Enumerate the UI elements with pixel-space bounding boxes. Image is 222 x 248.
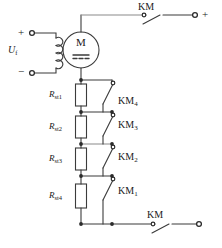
resistor-st2-label: Rst2	[49, 122, 62, 131]
resistor-st3-label: Rst3	[49, 154, 62, 163]
supply-plus-terminal	[193, 13, 198, 18]
bottom-km-pivot	[151, 222, 155, 226]
circuit-diagram-canvas: + − Uf M KM + KM Rst1 Rst2 Rst3 Rst4 KM4…	[0, 0, 222, 248]
motor-letter: M	[76, 37, 86, 48]
km2-blade	[103, 148, 113, 168]
km1-symbol: KM	[118, 185, 134, 196]
node-bottom-right	[110, 222, 114, 226]
circuit-schematic	[0, 0, 222, 248]
node-rung-3-left	[79, 174, 83, 178]
field-coil	[56, 37, 63, 68]
field-bottom-lead	[34, 68, 56, 73]
supply-minus-terminal	[197, 222, 202, 227]
bottom-contactor-label: KM	[147, 210, 163, 220]
km4-blade	[103, 84, 113, 104]
km1-blade	[103, 180, 113, 200]
field-minus-terminal	[30, 71, 35, 76]
resistor-st1-subscript: st1	[55, 93, 63, 100]
supply-plus-sign: +	[202, 9, 208, 20]
resistor-st3-symbol: R	[49, 153, 55, 163]
km2-subscript: 2	[134, 156, 138, 164]
km2-label: KM2	[118, 152, 138, 162]
node-rung-2-left	[79, 142, 83, 146]
km1-label: KM1	[118, 186, 138, 196]
field-plus-terminal	[30, 31, 35, 36]
resistor-st1-body	[76, 84, 87, 106]
node-rung-1-left	[79, 110, 83, 114]
field-voltage-label: Uf	[8, 45, 17, 55]
top-km-pivot	[142, 13, 146, 17]
resistor-st2-subscript: st2	[55, 125, 63, 132]
resistor-st3-body	[76, 148, 87, 170]
km1-subscript: 1	[134, 190, 138, 198]
km1-pivot	[111, 177, 115, 181]
km3-label: KM3	[118, 120, 138, 130]
km3-blade	[103, 116, 113, 136]
km3-symbol: KM	[118, 119, 134, 130]
resistor-st2-body	[76, 116, 87, 138]
resistor-st3-subscript: st3	[55, 157, 63, 164]
field-top-lead	[34, 33, 56, 38]
km4-label: KM4	[118, 96, 138, 106]
resistor-st4-body	[76, 184, 87, 208]
km4-pivot	[111, 81, 115, 85]
node-bottom-left	[79, 222, 83, 226]
resistor-st2-symbol: R	[49, 121, 55, 131]
top-contactor-label: KM	[138, 2, 154, 12]
resistor-st4-symbol: R	[49, 190, 55, 200]
km3-pivot	[111, 113, 115, 117]
km3-subscript: 3	[134, 124, 138, 132]
resistor-st1-symbol: R	[49, 89, 55, 99]
resistor-st1-label: Rst1	[49, 90, 62, 99]
field-minus-sign: −	[18, 66, 24, 77]
resistor-st4-subscript: st4	[55, 194, 63, 201]
field-plus-sign: +	[18, 27, 24, 38]
km2-symbol: KM	[118, 151, 134, 162]
field-voltage-subscript: f	[15, 49, 17, 56]
km4-subscript: 4	[134, 100, 138, 108]
resistor-st4-label: Rst4	[49, 191, 62, 200]
km2-pivot	[111, 145, 115, 149]
km4-symbol: KM	[118, 95, 134, 106]
node-rung-0-left	[79, 78, 83, 82]
